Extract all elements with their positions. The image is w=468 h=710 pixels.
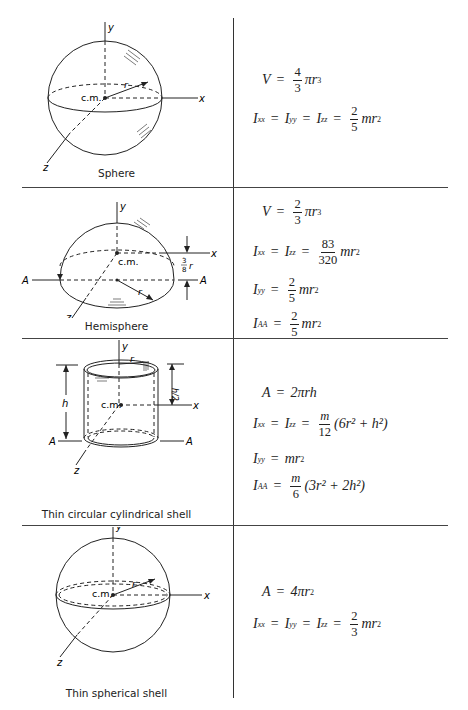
hemisphere-caption: Hemisphere — [0, 320, 233, 332]
cylinder-inertia-AA-formula: IAA= m6 (3r² + 2h²) — [253, 472, 365, 500]
axis-A-right-label: A — [185, 436, 193, 447]
axis-A-left-label: A — [21, 275, 29, 286]
y-axis-label: y — [107, 22, 115, 33]
radius-label: r — [130, 353, 135, 364]
cm-label: c.m. — [118, 256, 139, 267]
z-axis-label: z — [56, 657, 63, 668]
sphere-inertia-formula: Ixx= Iyy= Izz= 25 mr2 — [253, 105, 381, 133]
row-divider-3 — [22, 525, 448, 526]
hemisphere-diagram: y x z c.m. r A A 3 8 r — [0, 188, 233, 318]
hemisphere-figure: y x z c.m. r A A 3 8 r — [0, 188, 233, 318]
x-axis-label: x — [203, 590, 210, 601]
cylinder-caption: Thin circular cylindrical shell — [0, 508, 233, 520]
hemisphere-volume-formula: V= 23 πr3 — [262, 198, 321, 226]
sphere-volume-formula: V= 43 πr3 — [262, 66, 321, 94]
spherical-shell-area-formula: A= 4πr2 — [262, 584, 314, 600]
radius-label: r — [132, 578, 137, 589]
cm-label: c.m. — [101, 399, 122, 410]
half-height-label: h/2 — [170, 388, 179, 401]
spherical-shell-figure: y x z c.m. r — [0, 527, 233, 692]
sphere-caption: Sphere — [0, 167, 233, 179]
offset-variable: r — [189, 261, 194, 271]
cylinder-diagram: y x z c.m. r h h/2 A A — [0, 340, 233, 505]
cylinder-inertia-xx-zz-formula: Ixx= Izz= m12 (6r² + h²) — [253, 410, 388, 438]
hemisphere-inertia-yy-formula: Iyy= 25 mr2 — [253, 276, 319, 304]
x-axis-label: x — [210, 248, 217, 259]
radius-label: r — [138, 286, 143, 297]
sphere-diagram: y x z c.m. r — [0, 0, 233, 180]
offset-numerator: 3 — [182, 257, 186, 265]
row-divider-2 — [22, 338, 448, 339]
spherical-shell-caption: Thin spherical shell — [0, 687, 233, 699]
height-label: h — [62, 398, 68, 409]
z-axis-label: z — [65, 312, 72, 318]
radius-label: r — [124, 79, 129, 90]
hemisphere-inertia-AA-formula: IAA= 25 mr2 — [253, 310, 321, 338]
y-axis-label: y — [119, 201, 127, 212]
cylinder-figure: y x z c.m. r h h/2 A A — [0, 340, 233, 505]
vertical-divider — [233, 18, 234, 698]
cm-label: c.m. — [81, 92, 102, 103]
spherical-shell-diagram: y x z c.m. r — [0, 527, 233, 692]
sphere-figure: y x z c.m. r — [0, 0, 233, 180]
y-axis-label: y — [121, 341, 129, 352]
x-axis-label: x — [192, 400, 199, 411]
y-axis-label: y — [115, 527, 123, 532]
offset-denominator: 8 — [182, 266, 186, 274]
cylinder-area-formula: A= 2πrh — [262, 385, 317, 401]
cm-label: c.m. — [92, 588, 113, 599]
axis-A-right-label: A — [199, 275, 207, 286]
spherical-shell-inertia-formula: Ixx= Iyy= Izz= 23 mr2 — [253, 610, 381, 638]
axis-A-left-label: A — [48, 436, 56, 447]
hemisphere-inertia-xx-zz-formula: Ixx= Izz= 83320 mr2 — [253, 238, 360, 266]
cylinder-inertia-yy-formula: Iyy= mr2 — [253, 451, 304, 467]
x-axis-label: x — [198, 93, 205, 104]
z-axis-label: z — [73, 465, 80, 476]
